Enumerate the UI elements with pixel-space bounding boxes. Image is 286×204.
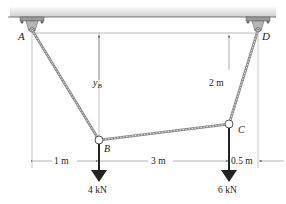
point-label-b: B (104, 143, 110, 154)
load-label-c: 6 kN (218, 185, 237, 195)
joint-c (225, 120, 233, 128)
ceiling (8, 6, 276, 17)
label-yb: yB (92, 77, 102, 90)
cable-diagram: yB 2 m 1 m 3 m 0.5 m 4 kN 6 kN A B C D (0, 0, 286, 204)
label-0-5m: 0.5 m (231, 156, 253, 166)
joint-b (95, 136, 103, 144)
label-2m: 2 m (209, 78, 224, 88)
label-1m: 1 m (54, 156, 69, 166)
label-3m: 3 m (151, 156, 166, 166)
witness-lines (32, 33, 258, 168)
point-label-d: D (261, 30, 270, 42)
cable (32, 30, 258, 140)
point-label-a: A (17, 30, 25, 42)
load-label-b: 4 kN (88, 185, 107, 195)
point-label-c: C (238, 124, 245, 135)
